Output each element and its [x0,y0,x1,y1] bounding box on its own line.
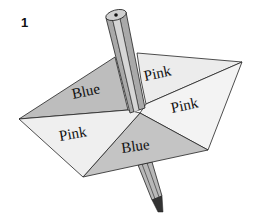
pencil-lead-icon [114,13,118,17]
pencil-lower [138,162,163,212]
spinner-diagram: Blue Pink Pink Blue Pink [0,0,257,213]
